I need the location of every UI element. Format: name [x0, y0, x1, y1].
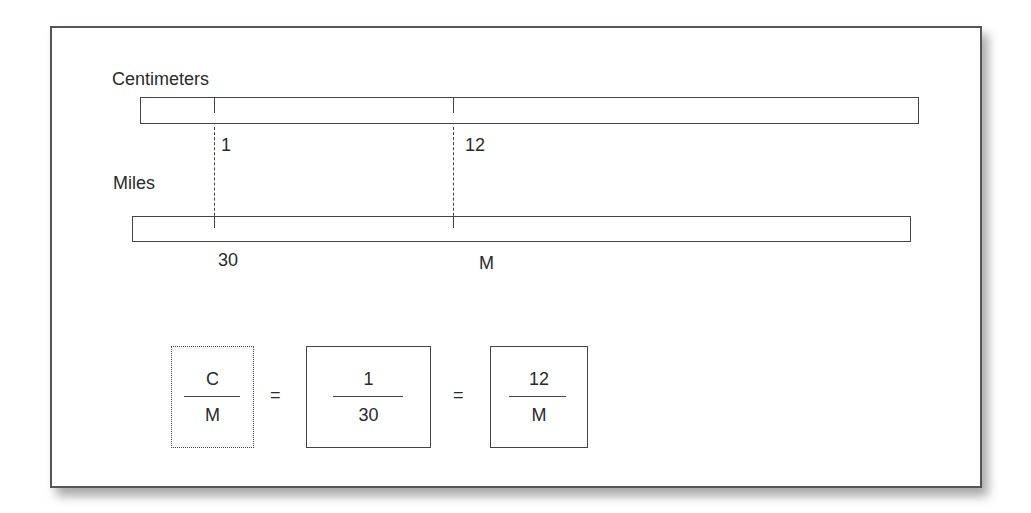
miles-tick-30	[214, 216, 215, 228]
miles-label: Miles	[113, 174, 155, 192]
centimeters-tick-1	[214, 97, 215, 113]
centimeters-bar	[140, 97, 919, 124]
ratio-box-12-over-M: 12 M	[490, 346, 588, 448]
miles-bar	[132, 216, 911, 242]
centimeters-tick-label-1: 1	[221, 136, 231, 154]
fraction-bar	[333, 396, 403, 397]
ratio-numerator: 1	[307, 370, 430, 388]
fraction-bar	[184, 396, 240, 397]
ratio-denominator: 30	[307, 406, 430, 424]
miles-tick-label-M: M	[479, 254, 494, 272]
equals-sign-1: =	[270, 386, 281, 404]
miles-tick-label-30: 30	[218, 251, 238, 269]
equals-sign-2: =	[453, 386, 464, 404]
miles-tick-M	[453, 216, 454, 228]
ratio-denominator: M	[172, 406, 253, 424]
ratio-box-c-over-m: C M	[171, 346, 254, 448]
fraction-bar	[509, 396, 566, 397]
ratio-numerator: C	[172, 370, 253, 388]
ratio-numerator: 12	[491, 370, 587, 388]
ratio-denominator: M	[491, 406, 587, 424]
ratio-box-1-over-30: 1 30	[306, 346, 431, 448]
centimeters-label: Centimeters	[112, 70, 209, 88]
centimeters-tick-label-12: 12	[465, 136, 485, 154]
centimeters-tick-12	[453, 97, 454, 113]
